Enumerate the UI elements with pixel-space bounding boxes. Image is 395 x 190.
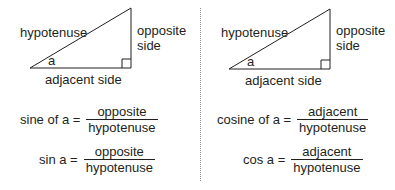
- fraction: opposite hypotenuse: [84, 144, 155, 175]
- right-angle-marker: [321, 60, 330, 69]
- hypotenuse-label: hypotenuse: [221, 25, 288, 40]
- denominator: hypotenuse: [291, 160, 362, 175]
- formula-lhs: cos a =: [243, 152, 285, 167]
- right-angle-marker: [122, 59, 131, 68]
- sine-formula-short: sin a = opposite hypotenuse: [39, 144, 155, 175]
- adjacent-label: adjacent side: [245, 73, 322, 88]
- numerator: adjacent: [306, 104, 359, 119]
- adjacent-label: adjacent side: [45, 72, 122, 87]
- formula-lhs: sine of a =: [20, 112, 80, 127]
- angle-label: a: [48, 53, 55, 68]
- cosine-panel: hypotenuse opposite side a adjacent side…: [198, 0, 395, 190]
- cosine-formula-short: cos a = adjacent hypotenuse: [243, 144, 363, 175]
- opposite-side-label: side: [336, 38, 360, 53]
- fraction: adjacent hypotenuse: [291, 144, 362, 175]
- sine-formula-long: sine of a = opposite hypotenuse: [20, 104, 158, 135]
- numerator: opposite: [95, 104, 148, 119]
- formula-lhs: sin a =: [39, 152, 78, 167]
- fraction: opposite hypotenuse: [86, 104, 157, 135]
- fraction: adjacent hypotenuse: [297, 104, 368, 135]
- numerator: opposite: [93, 144, 146, 159]
- denominator: hypotenuse: [86, 120, 157, 135]
- numerator: adjacent: [300, 144, 353, 159]
- denominator: hypotenuse: [297, 120, 368, 135]
- right-triangle-diagram: [198, 0, 395, 80]
- denominator: hypotenuse: [84, 160, 155, 175]
- sine-panel: hypotenuse opposite side a adjacent side…: [0, 0, 197, 190]
- hypotenuse-label: hypotenuse: [20, 25, 87, 40]
- cosine-formula-long: cosine of a = adjacent hypotenuse: [217, 104, 368, 135]
- formula-lhs: cosine of a =: [217, 112, 291, 127]
- opposite-label: opposite: [336, 23, 385, 38]
- angle-label: a: [247, 54, 254, 69]
- right-triangle-diagram: [0, 0, 197, 80]
- opposite-side-label: side: [137, 38, 161, 53]
- opposite-label: opposite: [137, 23, 186, 38]
